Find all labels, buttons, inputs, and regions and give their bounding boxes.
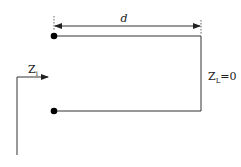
load-impedance-label: ZL=0 bbox=[208, 70, 237, 85]
transmission-line-diagram: d ZL=0 Zi bbox=[0, 0, 241, 167]
input-impedance-label: Zi bbox=[28, 63, 39, 78]
terminal-bottom bbox=[51, 108, 58, 115]
dimension-label-d: d bbox=[120, 12, 127, 25]
terminal-top bbox=[51, 33, 58, 40]
